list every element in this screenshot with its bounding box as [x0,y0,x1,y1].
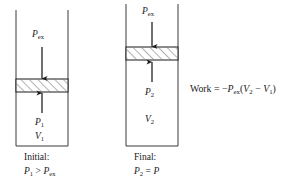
label-gas-pressure-initial-symbol: P [35,117,41,127]
caption-initial-condition-lhs: P [24,166,30,176]
work-equation-word: Work [190,83,212,94]
work-equation-subtract: − [253,83,264,94]
caption-initial-title: Initial: [24,153,49,163]
label-external-pressure-final: Pex [142,7,154,17]
caption-final-title-text: Final: [134,152,156,162]
piston-initial-hatching [17,80,68,92]
work-equation-close-paren: ) [273,83,276,94]
label-volume-initial-symbol: V [35,131,41,141]
caption-initial-title-text: Initial: [24,152,49,162]
work-equation-v-final-subscript: 2 [249,88,252,95]
work-equation: Work=−Pex(V2−V1) [190,84,276,94]
label-external-pressure-initial: Pex [32,30,44,40]
label-volume-initial-subscript: 1 [41,135,44,142]
caption-final-condition-lhs: P [134,166,140,176]
caption-final-condition-rhs: P [153,166,159,176]
label-volume-final-subscript: 2 [151,118,154,125]
work-equation-v-initial-subscript: 1 [269,88,272,95]
work-equation-equals: = [212,83,223,94]
caption-final-condition-lhs-sub: 2 [140,170,143,177]
caption-final-condition-operator: = [143,166,153,176]
caption-initial-condition: P1>Pex [24,167,56,177]
caption-initial-condition-lhs-sub: 1 [30,170,33,177]
label-volume-final: V2 [145,115,154,125]
piston-work-figure: Pex P1 V1 Initial: P1>Pex Pex P2 V2 Fina… [0,0,303,183]
label-gas-pressure-initial: P1 [35,118,44,128]
label-external-pressure-initial-subscript: ex [38,33,44,40]
caption-initial-condition-rhs-sub: ex [49,170,55,177]
caption-final-title: Final: [134,153,156,163]
caption-initial-condition-operator: > [33,166,43,176]
label-external-pressure-final-subscript: ex [148,10,154,17]
label-gas-pressure-final-symbol: P [145,87,151,97]
piston-final-hatching [127,48,178,60]
label-gas-pressure-final-subscript: 2 [151,91,154,98]
label-gas-pressure-initial-subscript: 1 [41,121,44,128]
work-equation-pressure-subscript: ex [234,88,240,95]
caption-final-condition: P2=P [134,167,159,177]
label-volume-final-symbol: V [145,114,151,124]
label-gas-pressure-final: P2 [145,88,154,98]
label-volume-initial: V1 [35,132,44,142]
work-equation-pressure-symbol: P [228,83,234,94]
label-external-pressure-initial-symbol: P [32,29,38,39]
label-external-pressure-final-symbol: P [142,6,148,16]
